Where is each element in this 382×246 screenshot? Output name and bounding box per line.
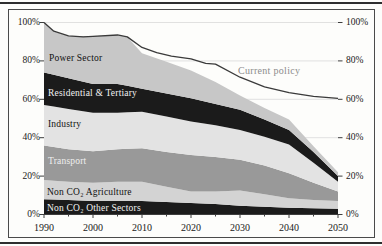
y-label-left-20%: 20% bbox=[11, 171, 40, 182]
y-label-right-100%: 100% bbox=[346, 17, 375, 28]
y-label-left-80%: 80% bbox=[11, 55, 40, 66]
y-label-right-20%: 20% bbox=[346, 171, 375, 182]
x-label-2050: 2050 bbox=[318, 222, 358, 233]
y-label-left-40%: 40% bbox=[11, 132, 40, 143]
top-rule bbox=[0, 2, 382, 4]
x-label-1990: 1990 bbox=[24, 222, 64, 233]
non-co2-agriculture-label: Non CO₂ Agriculture bbox=[47, 187, 132, 197]
y-label-right-60%: 60% bbox=[346, 94, 375, 105]
x-label-2010: 2010 bbox=[122, 222, 162, 233]
x-label-2040: 2040 bbox=[269, 222, 309, 233]
transport-label: Transport bbox=[48, 156, 86, 166]
y-label-right-0%: 0% bbox=[346, 209, 375, 220]
y-label-left-60%: 60% bbox=[11, 94, 40, 105]
industry-label: Industry bbox=[48, 119, 81, 129]
bottom-rule bbox=[0, 242, 382, 244]
x-label-2020: 2020 bbox=[171, 222, 211, 233]
non-co2-other-label: Non CO₂ Other Sectors bbox=[47, 203, 141, 213]
power-sector-label: Power Sector bbox=[49, 53, 102, 63]
y-label-right-80%: 80% bbox=[346, 55, 375, 66]
chart-figure: 0%20%40%60%80%100% 0%20%40%60%80%100% 19… bbox=[0, 0, 382, 246]
y-label-left-0%: 0% bbox=[11, 209, 40, 220]
current-policy-label: Current policy bbox=[238, 66, 300, 76]
x-label-2000: 2000 bbox=[73, 222, 113, 233]
figure-frame: 0%20%40%60%80%100% 0%20%40%60%80%100% 19… bbox=[8, 9, 375, 238]
y-label-right-40%: 40% bbox=[346, 132, 375, 143]
residential-label: Residential & Tertiary bbox=[48, 88, 137, 98]
y-label-left-100%: 100% bbox=[11, 17, 40, 28]
x-label-2030: 2030 bbox=[220, 222, 260, 233]
